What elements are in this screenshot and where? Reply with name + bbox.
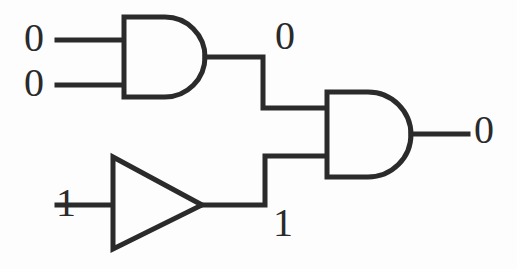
label-input-a: 0 xyxy=(24,18,44,58)
circuit-schematic-svg xyxy=(0,0,517,269)
wire-buffer-to-and2 xyxy=(202,156,327,205)
and-gate-1 xyxy=(124,17,205,97)
and-gate-2 xyxy=(327,92,411,177)
buffer-gate-1 xyxy=(113,157,202,249)
label-input-c: 1 xyxy=(56,183,76,223)
label-buffer-output: 1 xyxy=(273,203,293,243)
label-final-output: 0 xyxy=(474,110,494,150)
label-and-gate-1-output: 0 xyxy=(275,16,295,56)
wire-and1-to-and2 xyxy=(205,57,327,108)
logic-circuit-diagram: 0 0 0 1 1 0 xyxy=(0,0,517,269)
label-input-b: 0 xyxy=(24,63,44,103)
